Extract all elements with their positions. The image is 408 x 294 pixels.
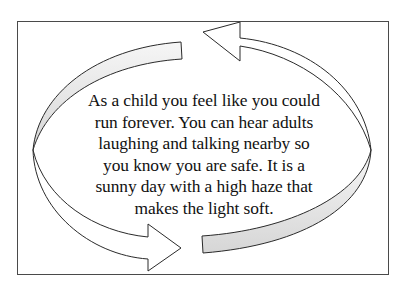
caption-line: laughing and talking nearby so: [80, 133, 328, 155]
caption-line: you know you are safe. It is a: [80, 155, 328, 177]
caption-line: makes the light soft.: [80, 198, 328, 220]
caption-line: sunny day with a high haze that: [80, 176, 328, 198]
caption-line: run forever. You can hear adults: [80, 112, 328, 134]
caption-line: As a child you feel like you could: [80, 90, 328, 112]
caption-text: As a child you feel like you could run f…: [80, 90, 328, 220]
